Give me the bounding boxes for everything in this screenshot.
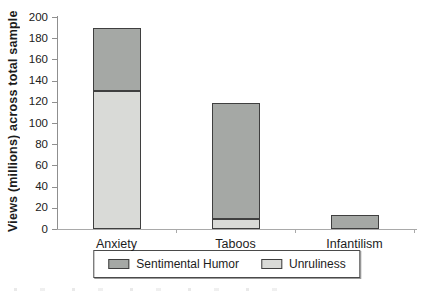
- stacked-bar-chart-figure: Views (millions) across total sample Sen…: [0, 0, 427, 292]
- y-tick-mark-60: [52, 165, 57, 166]
- legend-swatch-unruliness: [261, 259, 282, 269]
- legend-swatch-sentimental-humor: [108, 259, 129, 269]
- y-tick-label-20: 20: [14, 201, 48, 214]
- cropped-caption-remnant: [14, 288, 304, 291]
- legend-label-sentimental-humor: Sentimental Humor: [136, 257, 239, 271]
- y-tick-mark-80: [52, 144, 57, 145]
- bar-segment-taboos-unruliness: [212, 219, 260, 229]
- x-axis-line: [57, 229, 417, 230]
- y-tick-label-40: 40: [14, 180, 48, 193]
- x-category-label-anxiety: Anxiety: [62, 237, 172, 251]
- y-tick-label-60: 60: [14, 159, 48, 172]
- legend-item-unruliness: Unruliness: [261, 257, 346, 271]
- y-tick-mark-20: [52, 208, 57, 209]
- y-tick-mark-40: [52, 187, 57, 188]
- x-tick-mark-1: [176, 229, 177, 233]
- y-axis-line: [57, 16, 58, 230]
- x-category-label-infantilism: Infantilism: [300, 237, 410, 251]
- y-tick-label-180: 180: [14, 32, 48, 45]
- y-tick-label-140: 140: [14, 74, 48, 87]
- y-tick-mark-100: [52, 123, 57, 124]
- bar-segment-taboos-sentimental-humor: [212, 103, 260, 220]
- legend: Sentimental HumorUnruliness: [93, 250, 360, 278]
- bar-segment-anxiety-unruliness: [93, 91, 141, 229]
- y-tick-mark-140: [52, 81, 57, 82]
- y-tick-mark-160: [52, 59, 57, 60]
- y-tick-label-160: 160: [14, 53, 48, 66]
- y-tick-label-80: 80: [14, 138, 48, 151]
- y-tick-label-0: 0: [14, 223, 48, 236]
- x-tick-mark-3: [414, 229, 415, 233]
- y-tick-label-200: 200: [14, 11, 48, 24]
- y-tick-label-120: 120: [14, 95, 48, 108]
- y-tick-mark-0: [52, 229, 57, 230]
- legend-item-sentimental-humor: Sentimental Humor: [108, 257, 239, 271]
- y-tick-label-100: 100: [14, 117, 48, 130]
- bar-segment-infantilism-sentimental-humor: [331, 215, 379, 229]
- x-tick-mark-2: [295, 229, 296, 233]
- y-tick-mark-180: [52, 38, 57, 39]
- bar-segment-anxiety-sentimental-humor: [93, 28, 141, 92]
- y-tick-mark-120: [52, 102, 57, 103]
- y-tick-mark-200: [52, 17, 57, 18]
- legend-label-unruliness: Unruliness: [289, 257, 346, 271]
- x-category-label-taboos: Taboos: [181, 237, 291, 251]
